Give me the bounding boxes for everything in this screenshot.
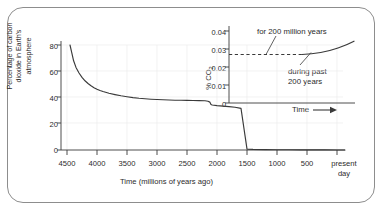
main-axis-lines bbox=[61, 41, 345, 150]
inset-time-arrow-icon bbox=[313, 107, 337, 113]
figure-container: Percentage of carbon dioxide in Earth's … bbox=[0, 0, 390, 217]
inset-axis-ticks bbox=[225, 31, 229, 103]
inset-axis-lines bbox=[229, 26, 355, 103]
main-gridlines bbox=[61, 45, 343, 150]
chart-vector-layer bbox=[0, 0, 390, 217]
inset-rising-curve-series bbox=[302, 41, 354, 54]
